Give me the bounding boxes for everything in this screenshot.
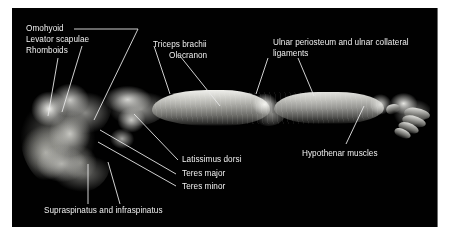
leader-infraspinatus — [108, 162, 120, 204]
leader-olecranon — [180, 56, 220, 106]
label-supraspinatus-infraspinatus: Supraspinatus and infraspinatus — [44, 206, 163, 216]
label-omohyoid: Omohyoid — [26, 24, 64, 34]
leader-triceps-brachii — [154, 46, 170, 94]
label-ulnar-ligaments: ligaments — [273, 49, 309, 59]
leader-hypothenar — [346, 106, 364, 144]
anatomy-figure: Omohyoid Levator scapulae Rhomboids Tric… — [0, 0, 454, 238]
label-olecranon: Olecranon — [169, 51, 207, 61]
leader-rhomboids — [48, 58, 58, 116]
label-levator-scapulae: Levator scapulae — [26, 35, 89, 45]
leader-ulnar-periosteum-b — [298, 58, 314, 96]
label-teres-minor: Teres minor — [182, 182, 225, 192]
label-triceps-brachii: Triceps brachii — [153, 40, 207, 50]
label-hypothenar-muscles: Hypothenar muscles — [302, 149, 378, 159]
leader-omohyoid-b — [94, 29, 138, 120]
specimen-photo-plate: Omohyoid Levator scapulae Rhomboids Tric… — [12, 8, 438, 227]
label-teres-major: Teres major — [182, 169, 225, 179]
label-rhomboids: Rhomboids — [26, 46, 68, 56]
leader-teres-minor — [98, 142, 176, 186]
leader-ulnar-periosteum-a — [256, 58, 268, 94]
label-latissimus-dorsi: Latissimus dorsi — [182, 155, 242, 165]
label-ulnar-periosteum: Ulnar periosteum and ulnar collateral — [273, 38, 409, 48]
leader-teres-major — [100, 130, 176, 174]
